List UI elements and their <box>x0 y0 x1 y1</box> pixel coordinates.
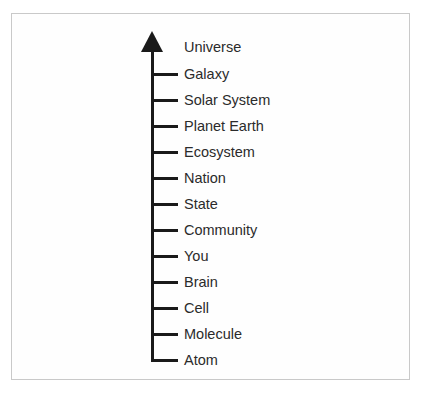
scale-level-label: Nation <box>184 171 226 186</box>
scale-level-label: Molecule <box>184 327 242 342</box>
scale-level-label: Galaxy <box>184 67 229 82</box>
tick-mark <box>151 333 178 336</box>
tick-mark <box>151 73 178 76</box>
tick-mark <box>151 229 178 232</box>
scale-level-label: Solar System <box>184 93 270 108</box>
tick-mark <box>151 255 178 258</box>
tick-mark <box>151 281 178 284</box>
scale-level-label: Cell <box>184 301 209 316</box>
scale-level-label: Planet Earth <box>184 119 264 134</box>
tick-mark <box>151 203 178 206</box>
scale-level-label: Atom <box>184 353 218 368</box>
scale-level-label: State <box>184 197 218 212</box>
scale-level-label: Brain <box>184 275 218 290</box>
tick-mark <box>151 177 178 180</box>
scale-level-label: You <box>184 249 208 264</box>
tick-mark <box>151 125 178 128</box>
tick-mark <box>151 359 178 362</box>
scale-level-label: Universe <box>184 40 241 55</box>
scale-level-label: Ecosystem <box>184 145 255 160</box>
scale-hierarchy-diagram: UniverseGalaxySolar SystemPlanet EarthEc… <box>0 0 422 395</box>
scale-level-label: Community <box>184 223 257 238</box>
tick-mark <box>151 307 178 310</box>
tick-mark <box>151 99 178 102</box>
tick-mark <box>151 151 178 154</box>
